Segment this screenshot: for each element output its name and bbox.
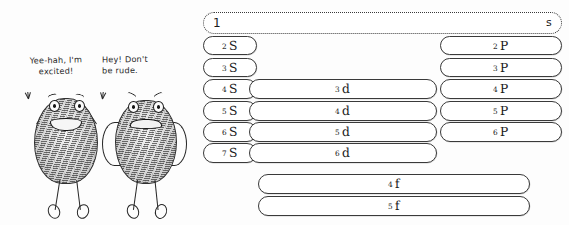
orbital-pill-5f[interactable]: 5 f: [258, 196, 530, 216]
frowning-mouth: [130, 119, 162, 129]
orbital-l-6p: P: [500, 126, 509, 138]
orbital-n-4s: 4: [222, 85, 227, 94]
thumbprint-body: [115, 100, 177, 184]
orbital-pill-1s[interactable]: 1 s: [203, 12, 562, 34]
orbital-n-6p: 6: [493, 128, 498, 137]
left-hand: [24, 90, 33, 99]
orbital-filling-diagram: 1 s 2 S 3 S 4 S 5 S: [196, 0, 569, 225]
orbital-n-3s: 3: [222, 64, 227, 73]
right-eye: [153, 101, 164, 113]
orbital-l-6s: S: [229, 126, 238, 138]
orbital-l-4d: d: [342, 105, 350, 117]
orbital-l-3p: P: [500, 61, 509, 73]
orbital-l-2s: S: [229, 39, 238, 51]
orbital-l-7s: S: [229, 147, 238, 159]
orbital-l-3d: d: [342, 83, 350, 95]
left-foot: [125, 202, 142, 220]
orbital-n-4p: 4: [493, 85, 498, 94]
orbital-pill-4p[interactable]: 4 P: [440, 79, 562, 99]
right-foot: [75, 202, 91, 220]
speech-text-left: Yee-hah, I'm excited!: [14, 54, 98, 77]
right-foot: [153, 203, 169, 221]
orbital-n-4d: 4: [335, 107, 340, 116]
orbital-n-2s: 2: [222, 42, 227, 51]
orbital-pill-2p[interactable]: 2 P: [440, 36, 562, 55]
orbital-pill-4d[interactable]: 4 d: [249, 101, 437, 121]
annoyed-thumbprint-character: [104, 88, 188, 218]
orbital-pill-6p[interactable]: 6 P: [440, 122, 562, 142]
orbital-n-5p: 5: [493, 107, 498, 116]
orbital-l-5p: P: [500, 105, 509, 117]
orbital-l-5f: f: [395, 200, 400, 212]
orbital-n-6d: 6: [335, 149, 340, 158]
orbital-n-5s: 5: [222, 107, 227, 116]
orbital-pill-6d[interactable]: 6 d: [249, 143, 437, 163]
orbital-n-6s: 6: [222, 128, 227, 137]
orbital-l-2p: P: [500, 39, 509, 51]
orbital-l-6d: d: [342, 147, 350, 159]
orbital-l-1s: s: [546, 17, 552, 29]
right-eyebrow: [153, 91, 163, 99]
orbital-pill-3d[interactable]: 3 d: [249, 79, 437, 99]
orbital-pill-5d[interactable]: 5 d: [249, 122, 437, 142]
left-eye: [128, 101, 139, 113]
orbital-n-4f: 4: [388, 180, 393, 189]
right-eye: [74, 100, 85, 112]
orbital-n-5d: 5: [335, 128, 340, 137]
orbital-pill-2s[interactable]: 2 S: [203, 36, 257, 55]
thumbprint-cartoon-panel: Yee-hah, I'm excited! Hey! Don't be rude…: [0, 0, 196, 225]
orbital-n-1s: 1: [213, 16, 221, 30]
left-eyebrow: [126, 91, 136, 99]
orbital-pill-3s[interactable]: 3 S: [203, 58, 257, 77]
orbital-n-3d: 3: [335, 85, 340, 94]
orbital-l-4s: S: [229, 83, 238, 95]
left-eye: [49, 100, 60, 112]
thumbprint-body: [34, 98, 98, 184]
orbital-pill-5p[interactable]: 5 P: [440, 101, 562, 121]
orbital-l-3s: S: [229, 61, 238, 73]
orbital-n-5f: 5: [388, 202, 393, 211]
orbital-l-5s: S: [229, 105, 238, 117]
excited-thumbprint-character: [22, 86, 110, 218]
orbital-n-7s: 7: [222, 149, 227, 158]
orbital-l-4f: f: [395, 178, 400, 190]
orbital-n-3p: 3: [493, 64, 498, 73]
orbital-n-2p: 2: [493, 42, 498, 51]
orbital-l-4p: P: [500, 83, 509, 95]
orbital-l-5d: d: [342, 126, 350, 138]
orbital-pill-3p[interactable]: 3 P: [440, 58, 562, 77]
left-foot: [45, 202, 62, 221]
orbital-pill-4f[interactable]: 4 f: [258, 174, 530, 194]
speech-text-right: Hey! Don't be rude.: [102, 54, 174, 76]
page-root: Yee-hah, I'm excited! Hey! Don't be rude…: [0, 0, 569, 225]
